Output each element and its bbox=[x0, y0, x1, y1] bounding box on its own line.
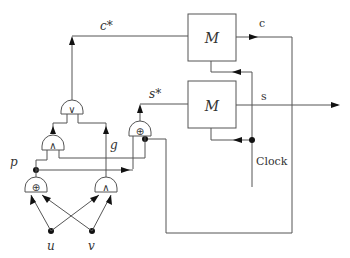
memory-block-upper-label: M bbox=[204, 30, 220, 46]
xor-gate-lower-symbol: ⊕ bbox=[32, 182, 40, 193]
and-gate-lower-symbol: ∧ bbox=[102, 182, 109, 193]
v-to-xor-wire bbox=[42, 195, 92, 231]
s-star-arrow-icon bbox=[137, 104, 143, 113]
c-star-arrow-icon bbox=[69, 36, 75, 45]
clock-upper-arrow-icon bbox=[232, 69, 241, 75]
u-label: u bbox=[47, 239, 55, 253]
circuit-diagram: M M c* c Clock s* s ∨ g ∧ bbox=[0, 0, 350, 258]
v-to-xor-arrow-icon bbox=[42, 195, 51, 203]
s-label: s bbox=[261, 90, 267, 103]
c-output-arrow-icon bbox=[249, 34, 258, 40]
p-label: p bbox=[10, 155, 18, 169]
u-to-xor-arrow-icon bbox=[30, 195, 36, 205]
u-to-and-arrow-icon bbox=[90, 195, 99, 203]
v-label: v bbox=[88, 239, 95, 253]
s-output-arrow-icon bbox=[331, 102, 340, 108]
c-label: c bbox=[259, 17, 265, 30]
or-input-left-arrow-icon bbox=[50, 126, 56, 134]
or-gate-symbol: ∨ bbox=[68, 104, 75, 115]
clock-lower-arrow-icon bbox=[233, 137, 242, 143]
u-to-and-wire bbox=[51, 195, 99, 231]
p-arrow-icon bbox=[121, 167, 130, 173]
xor-gate-upper-symbol: ⊕ bbox=[136, 126, 144, 137]
s-star-label: s* bbox=[149, 87, 161, 101]
g-label: g bbox=[110, 138, 118, 152]
and-gate-upper-symbol: ∧ bbox=[49, 140, 56, 151]
clock-junction-dot bbox=[249, 137, 255, 143]
g-arrow-icon bbox=[103, 126, 109, 134]
c-star-label: c* bbox=[100, 19, 113, 33]
memory-block-lower-label: M bbox=[204, 98, 220, 114]
clock-label: Clock bbox=[256, 155, 288, 168]
